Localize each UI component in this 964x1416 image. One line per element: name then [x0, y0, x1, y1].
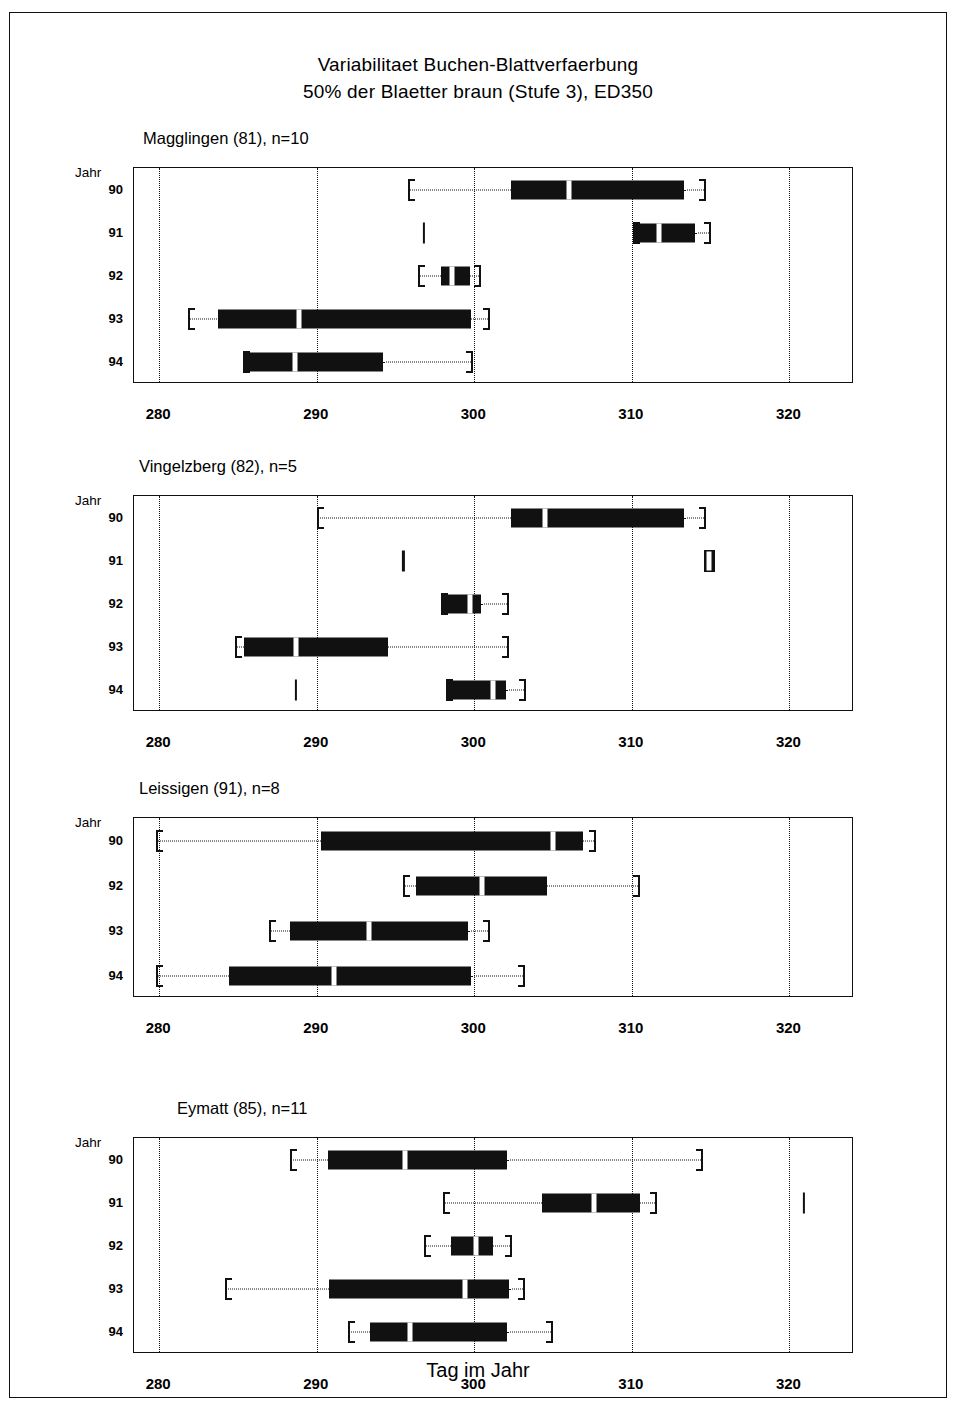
whisker-low [156, 840, 321, 841]
boxplot-row [134, 1138, 852, 1181]
median-marker [551, 831, 556, 850]
panel-title: Vingelzberg (82), n=5 [139, 457, 297, 476]
median-marker [566, 180, 571, 199]
whisker-cap-high [589, 830, 596, 852]
box-iqr [370, 1323, 507, 1342]
box-iqr [511, 180, 684, 199]
year-tick-92: 92 [87, 877, 123, 892]
plot-area [133, 1137, 853, 1353]
boxplot-row [134, 953, 852, 998]
figure-title: Variabilitaet Buchen-Blattverfaerbung 50… [10, 51, 946, 105]
x-tick-280: 280 [146, 405, 171, 422]
median-marker [332, 966, 337, 985]
x-tick-290: 290 [303, 1019, 328, 1036]
boxplot-row [134, 254, 852, 297]
year-tick-92: 92 [87, 268, 123, 283]
year-tick-94: 94 [87, 682, 123, 697]
box-iqr [633, 223, 694, 242]
whisker-high [471, 975, 525, 976]
year-tick-94: 94 [87, 354, 123, 369]
y-axis-corner-label: Jahr [75, 165, 101, 180]
median-marker [480, 876, 485, 895]
boxplot-row [134, 1311, 852, 1354]
box-iqr [441, 594, 480, 613]
boxplot-row [134, 669, 852, 712]
whisker-low [443, 1202, 542, 1203]
box-iqr [328, 1150, 508, 1169]
box-iqr [511, 508, 684, 527]
whisker-cap-high [518, 965, 525, 987]
median-marker [292, 353, 297, 372]
whisker-cap-low [348, 1321, 355, 1343]
median-marker [707, 551, 712, 570]
panel-title: Eymatt (85), n=11 [177, 1099, 307, 1118]
whisker-cap-low [156, 965, 163, 987]
boxplot-row [134, 1268, 852, 1311]
whisker-high [388, 647, 509, 648]
outlier-marker [802, 1192, 804, 1213]
whisker-cap-low [290, 1149, 297, 1171]
x-tick-300: 300 [461, 1019, 486, 1036]
x-tick-280: 280 [146, 733, 171, 750]
year-tick-94: 94 [87, 967, 123, 982]
year-tick-91: 91 [87, 224, 123, 239]
whisker-low [156, 975, 228, 976]
whisker-cap-low [403, 875, 410, 897]
year-tick-93: 93 [87, 1281, 123, 1296]
year-tick-90: 90 [87, 181, 123, 196]
y-axis-corner-label: Jahr [75, 815, 101, 830]
x-tick-310: 310 [618, 405, 643, 422]
whisker-cap-high [483, 920, 490, 942]
boxplot-row [134, 168, 852, 211]
whisker-cap-high [466, 351, 473, 373]
boxplot-row [134, 496, 852, 539]
x-tick-320: 320 [776, 733, 801, 750]
box-iqr [229, 966, 472, 985]
whisker-cap-high [502, 593, 509, 615]
boxplot-row [134, 582, 852, 625]
box-iqr [244, 638, 387, 657]
median-marker [402, 1150, 407, 1169]
whisker-high [507, 1159, 702, 1160]
whisker-cap-high [474, 265, 481, 287]
box-iqr [451, 1236, 494, 1255]
boxplot-row [134, 539, 852, 582]
whisker-cap-high [699, 507, 706, 529]
median-marker [491, 681, 496, 700]
boxplot-row [134, 908, 852, 953]
x-tick-320: 320 [776, 1019, 801, 1036]
boxplot-row [134, 863, 852, 908]
whisker-cap-low [317, 507, 324, 529]
median-marker [592, 1193, 597, 1212]
boxplot-row [134, 1181, 852, 1224]
whisker-low [317, 517, 511, 518]
x-tick-300: 300 [461, 733, 486, 750]
boxplot-row [134, 626, 852, 669]
box-iqr [218, 310, 472, 329]
box-iqr [243, 353, 383, 372]
median-marker [473, 1236, 478, 1255]
outlier-marker [402, 550, 404, 571]
whisker-cap-low [443, 1192, 450, 1214]
figure-frame: Variabilitaet Buchen-Blattverfaerbung 50… [9, 12, 947, 1398]
median-marker [543, 508, 548, 527]
boxplot-row [134, 341, 852, 384]
whisker-cap-low [424, 1235, 431, 1257]
whisker-cap-low [269, 920, 276, 942]
whisker-cap-high [546, 1321, 553, 1343]
x-tick-320: 320 [776, 405, 801, 422]
boxplot-row [134, 1224, 852, 1267]
x-tick-290: 290 [303, 405, 328, 422]
year-tick-93: 93 [87, 922, 123, 937]
whisker-cap-low [156, 830, 163, 852]
box-iqr [446, 681, 506, 700]
x-tick-290: 290 [303, 733, 328, 750]
panel-title: Leissigen (91), n=8 [139, 779, 280, 798]
year-tick-90: 90 [87, 832, 123, 847]
median-marker [462, 1280, 467, 1299]
whisker-low [225, 1289, 329, 1290]
median-marker [467, 594, 472, 613]
median-marker [297, 310, 302, 329]
year-tick-93: 93 [87, 311, 123, 326]
whisker-high [547, 885, 640, 886]
